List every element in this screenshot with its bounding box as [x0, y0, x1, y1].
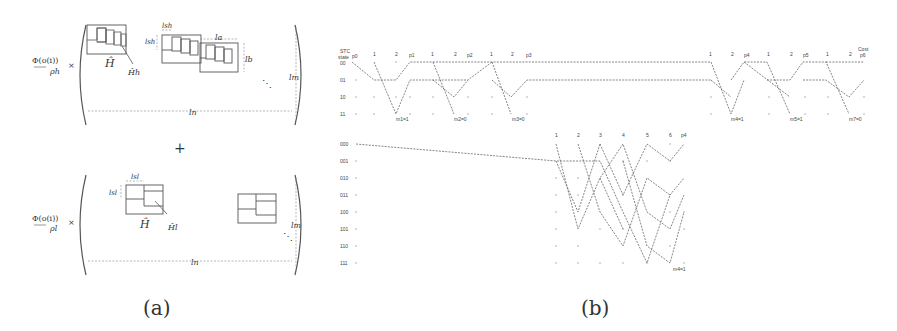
lsl-width-label: lsl	[131, 173, 139, 181]
col-2: 2	[395, 51, 398, 57]
state-111: 111	[340, 260, 348, 266]
col-1: 1	[373, 51, 376, 57]
lsh-width-label: lsh	[162, 22, 172, 30]
panel-b-top-trellis: STC state Cost 00 01 10 11 p0 1 2 p1 1 2…	[338, 46, 869, 122]
lsl-height-label: lsl	[109, 189, 117, 197]
state-011: 011	[340, 192, 348, 198]
figure-canvas: Ĥ Ĥh lsh lsh la lb lm ln ⋱ Φ(o(i)) ρh × …	[0, 0, 897, 331]
msg-m4-bottom: m4=1	[673, 266, 686, 272]
staircase-blocks	[162, 35, 238, 72]
col-1f: 1	[826, 51, 829, 57]
bcol-3: 3	[599, 132, 602, 138]
bcol-5: 5	[646, 132, 649, 138]
times-sign-bottom: ×	[68, 218, 75, 227]
col-p2: p2	[467, 52, 473, 58]
coefficient-numerator-bottom: Φ(o(i))	[32, 214, 58, 223]
lsh-height-label: lsh	[145, 38, 155, 46]
col-p1: p1	[409, 52, 415, 58]
state-010: 010	[340, 175, 349, 181]
state-001: 001	[340, 158, 349, 164]
h-hat-l-label: Ĥl	[167, 223, 178, 232]
ln-label-bottom: ln	[191, 258, 199, 267]
h-hat-label-bottom: Ĥ	[139, 217, 150, 231]
state-000: 000	[340, 141, 349, 147]
state-11: 11	[340, 111, 345, 117]
left-paren	[80, 25, 86, 125]
lm-label-bottom: lm	[291, 221, 302, 230]
lb-label: lb	[245, 55, 253, 64]
col-2d: 2	[731, 51, 734, 57]
bcol-6: 6	[669, 132, 672, 138]
col-1b: 1	[431, 51, 434, 57]
col-2c: 2	[511, 51, 514, 57]
trellis-paths-bottom	[356, 144, 684, 263]
state-100: 100	[340, 209, 349, 215]
col-2e: 2	[790, 51, 793, 57]
msg-m4: m4=1	[731, 116, 744, 122]
msg-m5: m5=1	[790, 116, 803, 122]
coefficient-numerator: Φ(o(i))	[32, 56, 58, 65]
panel-b-bottom-trellis: 000 001 010 011 100 101 110 111 1 2 3 4 …	[340, 132, 687, 272]
caption-b: (b)	[581, 296, 609, 320]
col-p4: p4	[744, 52, 750, 58]
msg-m3: m3=0	[512, 116, 525, 122]
ellipsis: ⋱	[262, 78, 272, 89]
col-1c: 1	[490, 51, 493, 57]
h-hat-h-label: Ĥh	[127, 68, 140, 77]
panel-a-top-term: Ĥ Ĥh lsh lsh la lb lm ln ⋱ Φ(o(i)) ρh ×	[32, 22, 301, 125]
col-2f: 2	[849, 51, 852, 57]
col-p5: p5	[803, 52, 809, 58]
msg-m7: m7=0	[849, 116, 862, 122]
plus-sign: +	[174, 140, 186, 156]
la-label: la	[215, 33, 223, 42]
second-block-bottom	[238, 194, 276, 223]
ln-label: ln	[189, 108, 197, 117]
bcol-2: 2	[577, 132, 580, 138]
state-101: 101	[340, 226, 349, 232]
h-hat-block-bottom	[126, 185, 163, 214]
col-2b: 2	[454, 51, 457, 57]
h-hat-label: Ĥ	[104, 56, 115, 70]
msg-m1: m1=1	[396, 116, 409, 122]
col-p3: p3	[526, 52, 532, 58]
coefficient-denominator-bottom: ρl	[49, 224, 58, 233]
caption-a: (a)	[143, 296, 171, 320]
bcol-p4: p4	[681, 132, 687, 138]
lm-label: lm	[289, 73, 300, 82]
state-00: 00	[340, 60, 346, 66]
col-1d: 1	[709, 51, 712, 57]
trellis-paths	[352, 62, 864, 114]
col-p6: p6	[860, 52, 866, 58]
times-sign: ×	[68, 61, 75, 70]
bcol-4: 4	[622, 132, 625, 138]
col-1e: 1	[767, 51, 770, 57]
state-10: 10	[340, 94, 346, 100]
state-01: 01	[340, 77, 346, 83]
coefficient-denominator: ρh	[49, 67, 60, 76]
ellipsis-bottom: ⋱	[283, 231, 293, 242]
h-hat-block	[87, 25, 126, 54]
state-110: 110	[340, 243, 348, 249]
bcol-1: 1	[555, 132, 558, 138]
col-p0: p0	[352, 53, 358, 59]
panel-a-bottom-term: Ĥ Ĥl lsl lsl lm ln ⋱ Φ(o(i)) ρl ×	[32, 173, 302, 275]
msg-m2: m2=0	[454, 116, 467, 122]
